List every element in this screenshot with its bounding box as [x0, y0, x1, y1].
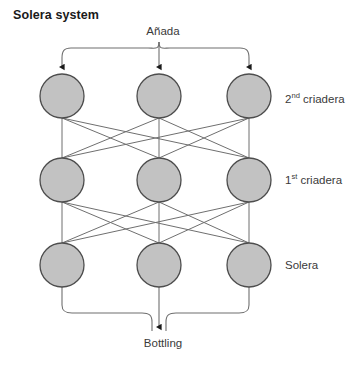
- cask-node: [137, 74, 181, 118]
- solera-system-figure: Solera system: [0, 0, 361, 368]
- cask-node: [137, 158, 181, 202]
- cask-nodes: [40, 74, 271, 287]
- input-distribution-arrows: [62, 42, 249, 67]
- cask-node: [227, 74, 271, 118]
- row-label-text: criadera: [297, 174, 342, 186]
- input-label: Añada: [133, 25, 193, 37]
- cask-node: [227, 158, 271, 202]
- cask-node: [40, 243, 84, 287]
- row-label-first-criadera: 1st criadera: [285, 174, 342, 186]
- row-label-second-criadera: 2nd criadera: [285, 93, 345, 105]
- row-label-solera: Solera: [285, 259, 318, 271]
- output-collection-arrows: [62, 287, 249, 331]
- cask-node: [227, 243, 271, 287]
- row-label-text: criadera: [300, 93, 345, 105]
- cask-node: [40, 74, 84, 118]
- output-label: Bottling: [133, 337, 193, 349]
- row-label-ordinal-suffix: nd: [291, 91, 299, 100]
- row-label-number: Solera: [285, 259, 318, 271]
- cask-node: [40, 158, 84, 202]
- cask-node: [137, 243, 181, 287]
